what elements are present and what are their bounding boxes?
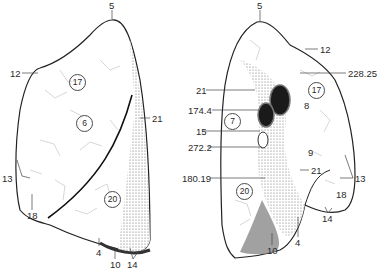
- label-anterior-border-upper: 12: [10, 69, 21, 79]
- label-anterior-border-lower: 13: [2, 174, 13, 184]
- circled-6-lateral: 6: [76, 115, 93, 132]
- label-15: 15: [196, 127, 207, 137]
- label-border-upper-medial: 12: [320, 45, 331, 55]
- label-272-2: 272.2: [188, 143, 212, 153]
- label-228-25: 228.25: [348, 69, 377, 79]
- label-inferior-border-medial: 4: [295, 238, 300, 248]
- label-diaphragmatic-medial: 14: [322, 214, 333, 224]
- label-inferior-border-lateral: 4: [96, 248, 101, 258]
- lung-drawing: [0, 0, 386, 271]
- label-lingula-lateral: 18: [27, 211, 38, 221]
- label-fissure-lower-medial: 21: [311, 166, 322, 176]
- label-cardiac-impression: 8: [304, 101, 309, 111]
- label-174-4: 174.4: [188, 106, 212, 116]
- label-apex-medial: 5: [257, 1, 262, 11]
- label-base-medial: 10: [267, 246, 278, 256]
- circled-17-medial: 17: [308, 82, 325, 99]
- label-lingula-medial: 18: [336, 190, 347, 200]
- circled-17-lateral: 17: [69, 74, 86, 91]
- circled-20-lateral: 20: [104, 191, 121, 208]
- label-base-lateral: 10: [110, 260, 121, 270]
- label-180-19: 180.19: [182, 174, 211, 184]
- label-9-medial: 9: [308, 148, 313, 158]
- label-fissure-upper-medial: 21: [196, 86, 207, 96]
- label-border-right-medial: 13: [355, 174, 366, 184]
- label-diaphragmatic-lateral: 14: [127, 260, 138, 270]
- medial-lung: [221, 22, 355, 258]
- circled-7-medial: 7: [224, 113, 241, 130]
- label-fissure-lateral: 21: [152, 114, 163, 124]
- lung-illustration: 5 12 21 13 18 4 10 14 17 6 20 5 12 228.2…: [0, 0, 386, 271]
- label-apex-lateral: 5: [109, 1, 114, 11]
- circled-20-medial: 20: [236, 183, 253, 200]
